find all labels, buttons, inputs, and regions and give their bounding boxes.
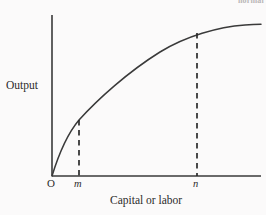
x-tick-label-m: m (74, 178, 82, 189)
origin-label: O (47, 177, 55, 189)
y-axis-label: Output (6, 79, 38, 91)
production-function-chart (0, 0, 266, 215)
x-axis-label: Capital or labor (110, 194, 182, 206)
production-curve (52, 24, 261, 176)
x-tick-label-n: n (193, 178, 198, 189)
